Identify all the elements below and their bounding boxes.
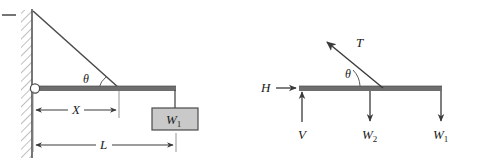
horizontal-beam-left — [33, 86, 176, 91]
engineering-figure: θ W1 X L — [0, 0, 486, 167]
angle-label-right: θ — [345, 67, 351, 81]
figure-background — [0, 0, 486, 167]
dimension-x-label: X — [71, 102, 81, 117]
pin-support — [30, 84, 39, 93]
figure-canvas: θ W1 X L — [0, 0, 486, 167]
angle-label-left: θ — [83, 72, 89, 86]
horizontal-reaction-label: H — [260, 80, 271, 95]
hatched-wall — [21, 10, 32, 158]
horizontal-beam-right — [299, 86, 442, 91]
tension-label: T — [356, 35, 364, 50]
dimension-l-label: L — [99, 137, 107, 152]
